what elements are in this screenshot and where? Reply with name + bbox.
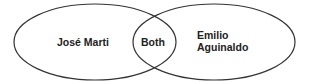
intersection-label: Both	[141, 36, 165, 48]
right-set-label: Emilio Aguinaldo	[197, 29, 248, 53]
left-set-label: José Marti	[57, 36, 109, 48]
right-set-label-line-2: Aguinaldo	[197, 41, 248, 53]
right-set-label-line-1: Emilio	[197, 29, 248, 41]
